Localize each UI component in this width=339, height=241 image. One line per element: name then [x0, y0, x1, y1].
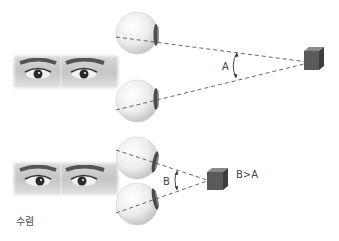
angle-label-a: A — [222, 61, 229, 72]
panel-far: A — [14, 12, 324, 122]
eyes-photo-far — [14, 56, 118, 88]
target-cube-far — [304, 47, 324, 70]
eyeball-upper-near — [116, 137, 160, 179]
eyeball-lower-near — [116, 183, 160, 225]
eyes-photo-near — [14, 163, 118, 195]
comparison-label: B>A — [236, 169, 258, 180]
angle-label-b: B — [163, 176, 170, 187]
eyeball-upper-far — [116, 12, 159, 54]
diagram-canvas: A — [0, 0, 339, 241]
diagram-caption: 수렴 — [16, 213, 34, 228]
target-cube-near — [207, 168, 228, 190]
panel-near: B B>A — [14, 137, 258, 225]
convergence-diagram: A — [0, 0, 339, 241]
